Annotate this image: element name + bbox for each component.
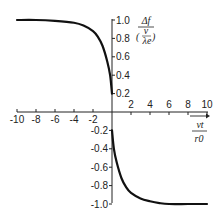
x-tick-label: 10 [201, 99, 213, 110]
x-tick-label: -8 [32, 114, 41, 125]
series-line-1 [112, 130, 207, 204]
y-tick-label: 1.0 [116, 15, 130, 26]
x-tick-label: 8 [185, 99, 191, 110]
y-axis-label: Δf ( v λe ) [136, 15, 156, 46]
x-tick-label: 6 [166, 99, 172, 110]
x-label-numerator: vt [196, 119, 203, 130]
y-tick-label: 0.6 [116, 51, 130, 62]
chart: -10-8-6-4-22468101.00.80.60.40.2-0.2-0.4… [0, 0, 223, 218]
x-tick-label: 2 [128, 99, 134, 110]
axes [17, 19, 208, 204]
y-tick-label: -0.2 [91, 125, 109, 136]
y-label-close-paren: ) [151, 31, 156, 43]
y-tick-label: 0.4 [116, 70, 130, 81]
y-tick-label: -0.6 [91, 162, 109, 173]
y-tick-label: -1.0 [91, 199, 109, 210]
x-tick-label: -10 [10, 114, 25, 125]
y-tick-label: -0.4 [91, 143, 109, 154]
arrow-right-icon [206, 114, 210, 119]
x-tick-label: -6 [51, 114, 60, 125]
x-axis-label: vt r0 [190, 114, 210, 145]
x-tick-label: 4 [147, 99, 153, 110]
y-tick-label: 0.8 [116, 33, 130, 44]
y-tick-label: 0.2 [116, 88, 130, 99]
series-line-0 [17, 20, 112, 94]
x-tick-label: -4 [70, 114, 79, 125]
y-label-denominator-bottom: λe [142, 35, 152, 46]
y-tick-label: -0.8 [91, 180, 109, 191]
x-tick-label: -2 [89, 114, 98, 125]
y-label-open-paren: ( [136, 31, 140, 43]
x-label-denominator: r0 [195, 133, 204, 144]
